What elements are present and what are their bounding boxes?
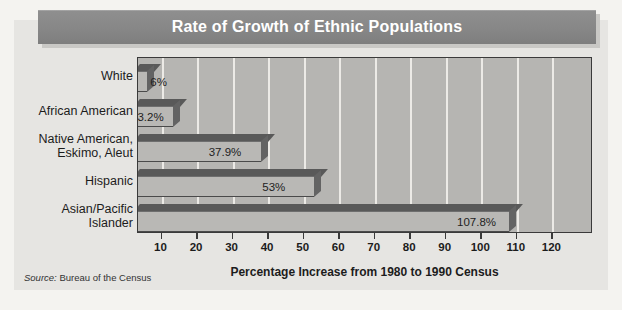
category-label: Native American, Eskimo, Aleut xyxy=(10,132,133,160)
category-label: Hispanic xyxy=(10,174,133,188)
tick-label-50: 50 xyxy=(283,241,323,253)
gridline-120 xyxy=(552,58,554,232)
tick-label-20: 20 xyxy=(176,241,216,253)
chart-title: Rate of Growth of Ethnic Populations xyxy=(172,18,463,36)
plot-area: 6%13.2%37.9%53%107.8% xyxy=(137,57,592,233)
tick-mark-60 xyxy=(338,233,340,239)
category-axis-labels: WhiteAfrican AmericanNative American, Es… xyxy=(10,57,133,233)
tick-label-10: 10 xyxy=(141,241,181,253)
tick-mark-50 xyxy=(303,233,305,239)
bar-front-face xyxy=(137,211,509,232)
bar-side-face xyxy=(173,100,180,127)
tick-label-40: 40 xyxy=(247,241,287,253)
bar-value-label: 6% xyxy=(150,73,167,91)
bar-value-label: 37.9% xyxy=(209,143,242,161)
tick-mark-10 xyxy=(161,233,163,239)
bar-value-label: 13.2% xyxy=(137,108,164,126)
category-label: Asian/Pacific Islander xyxy=(10,202,133,230)
bar: 6% xyxy=(137,64,155,92)
x-axis-title: Percentage Increase from 1980 to 1990 Ce… xyxy=(137,265,592,279)
tick-mark-90 xyxy=(445,233,447,239)
bar: 37.9% xyxy=(137,134,269,162)
tick-mark-70 xyxy=(374,233,376,239)
chart-screenshot: Rate of Growth of Ethnic Populations Whi… xyxy=(0,0,622,310)
category-label: African American xyxy=(10,104,133,118)
bar-front-face xyxy=(137,176,314,197)
category-label: White xyxy=(10,69,133,83)
source-prefix: Source: xyxy=(24,272,57,283)
bar: 107.8% xyxy=(137,204,517,232)
bar: 53% xyxy=(137,169,322,197)
bar-front-face xyxy=(137,141,261,162)
tick-mark-110 xyxy=(516,233,518,239)
chart-title-banner: Rate of Growth of Ethnic Populations xyxy=(38,10,596,44)
tick-label-80: 80 xyxy=(389,241,429,253)
bar: 13.2% xyxy=(137,99,181,127)
tick-label-110: 110 xyxy=(496,241,536,253)
tick-mark-120 xyxy=(551,233,553,239)
bar-side-face xyxy=(261,135,268,162)
tick-label-60: 60 xyxy=(318,241,358,253)
bar-value-label: 53% xyxy=(262,178,285,196)
source-text: Bureau of the Census xyxy=(57,272,152,283)
bar-value-label: 107.8% xyxy=(457,213,496,231)
tick-mark-40 xyxy=(267,233,269,239)
bar-side-face xyxy=(509,205,516,232)
tick-mark-20 xyxy=(196,233,198,239)
source-note: Source: Bureau of the Census xyxy=(24,272,151,283)
tick-label-100: 100 xyxy=(460,241,500,253)
tick-label-30: 30 xyxy=(212,241,252,253)
tick-mark-30 xyxy=(232,233,234,239)
tick-label-70: 70 xyxy=(354,241,394,253)
tick-mark-80 xyxy=(409,233,411,239)
tick-label-120: 120 xyxy=(531,241,571,253)
bar-side-face xyxy=(314,170,321,197)
bar-front-face xyxy=(137,71,147,92)
tick-mark-100 xyxy=(480,233,482,239)
tick-label-90: 90 xyxy=(425,241,465,253)
